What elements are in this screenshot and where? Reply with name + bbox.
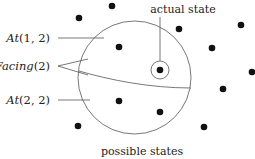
possible-states-diagram: actual state At(1, 2) Facing(2) At(2, 2)… [0,0,255,159]
state-dot [209,45,216,52]
facing-args: (2) [34,59,50,73]
state-dot [109,3,116,10]
facing-leader-lower [58,66,88,75]
facing-name: Facing [0,59,34,73]
at-2-2-name: At [5,93,19,107]
state-dot [116,44,123,51]
state-dot [157,109,164,116]
at-2-2-args: (2, 2) [19,93,50,107]
state-dot [76,15,83,22]
possible-states-label: possible states [101,145,184,158]
state-dot [116,98,123,105]
at-1-2-name: At [5,31,19,45]
state-dot [249,69,255,76]
state-dot [75,123,82,130]
facing-2-label: Facing(2) [0,59,50,73]
state-dot [201,124,208,131]
state-dots [75,3,255,131]
facing-leader-upper [58,59,88,66]
facing-boundary-curve [79,71,191,88]
state-dot [238,22,245,29]
at-2-2-label: At(2, 2) [5,93,50,107]
at-1-2-label: At(1, 2) [5,31,50,45]
state-dot [176,26,183,33]
actual-state-dot [157,67,164,74]
state-dot [220,86,227,93]
at-1-2-args: (1, 2) [19,31,50,45]
actual-state-label: actual state [150,3,215,16]
